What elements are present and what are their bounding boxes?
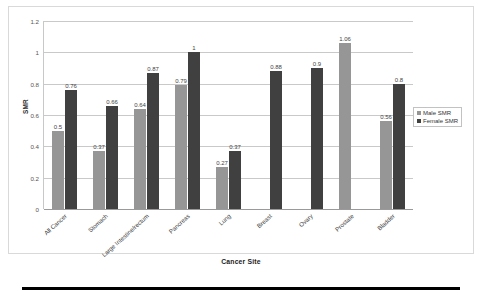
bar-group: 0.640.87 (126, 21, 167, 209)
bar-group: 0.50.76 (44, 21, 85, 209)
bar: 0.8 (393, 84, 405, 209)
bar: 0.56 (380, 121, 392, 209)
x-axis-tick-cell: Bladder (372, 211, 413, 257)
bar-value-label: 0.37 (93, 144, 105, 150)
x-axis-tick-label: Stomach (87, 213, 109, 234)
y-axis-tick-label: 0.4 (30, 144, 39, 150)
bar: 0.5 (52, 131, 64, 209)
bar-value-label: 0.56 (380, 114, 392, 120)
legend-swatch-male-icon (417, 111, 421, 115)
bar-group: 0.370.66 (85, 21, 126, 209)
bar-value-label: 0.9 (313, 61, 321, 67)
y-axis-title: SMR (22, 99, 29, 114)
y-axis-tick-label: 0 (36, 207, 39, 213)
x-axis-tick-label: Bladder (377, 213, 397, 232)
bar-value-label: 0.66 (106, 99, 118, 105)
x-axis-tick-labels: All CancerStomachLarge Intestine/rectumP… (43, 211, 413, 257)
bar-value-label: 0.64 (134, 102, 146, 108)
bar: 0.37 (93, 151, 105, 209)
bar: 0.66 (106, 106, 118, 209)
bar-group: 0.270.37 (208, 21, 249, 209)
y-axis-tick-label: 0.8 (30, 82, 39, 88)
legend-swatch-female-icon (417, 119, 421, 123)
x-axis-tick-label: All Cancer (43, 213, 68, 236)
bar-group: 0.9 (290, 21, 331, 209)
x-axis-tick-cell: Ovary (290, 211, 331, 257)
bar-value-label: 0.88 (270, 64, 282, 70)
x-axis-tick-cell: Lung (207, 211, 248, 257)
x-axis-tick-label: Lung (218, 213, 232, 227)
x-axis-tick-label: Breast (256, 213, 273, 229)
bar-group: 0.88 (249, 21, 290, 209)
x-axis-tick-label: Pancreas (168, 213, 191, 235)
y-axis-tick-label: 1.2 (30, 19, 39, 25)
x-axis-tick-cell: Pancreas (166, 211, 207, 257)
bar-value-label: 0.8 (395, 77, 403, 83)
bar: 0.87 (147, 73, 159, 209)
bar: 0.88 (270, 71, 282, 209)
x-axis-tick-cell: Prostate (331, 211, 372, 257)
x-axis-tick-label: Ovary (298, 213, 314, 228)
x-axis-tick-cell: Breast (249, 211, 290, 257)
chart-legend: Male SMR Female SMR (413, 107, 462, 127)
bar-value-label: 0.76 (65, 83, 77, 89)
bar-value-label: 1 (192, 45, 195, 51)
y-axis-tick-label: 1 (36, 50, 39, 56)
bar: 0.79 (175, 85, 187, 209)
bar-group: 0.791 (167, 21, 208, 209)
x-axis-tick-label: Prostate (334, 213, 355, 233)
bar-group: 0.560.8 (372, 21, 413, 209)
bar: 1 (188, 52, 200, 209)
bar: 0.76 (65, 90, 77, 209)
x-axis-tick-cell: Large Intestine/rectum (125, 211, 166, 257)
bar: 0.9 (311, 68, 323, 209)
bar-value-label: 0.5 (54, 124, 62, 130)
x-axis-title: Cancer Site (0, 258, 482, 265)
legend-item-female: Female SMR (417, 118, 458, 124)
y-axis-tick-label: 0.6 (30, 113, 39, 119)
legend-label-male: Male SMR (423, 110, 451, 116)
bar: 1.06 (339, 43, 351, 209)
plot-area: 00.20.40.60.811.2 0.50.760.370.660.640.8… (43, 21, 413, 209)
bar: 0.27 (216, 167, 228, 209)
bar-value-label: 0.87 (147, 66, 159, 72)
bottom-divider (22, 287, 460, 290)
bar-value-label: 0.27 (216, 160, 228, 166)
y-axis-tick-label: 0.2 (30, 176, 39, 182)
legend-item-male: Male SMR (417, 110, 458, 116)
bar-groups: 0.50.760.370.660.640.870.7910.270.370.88… (44, 21, 413, 209)
bar-value-label: 1.06 (339, 36, 351, 42)
bar-value-label: 0.79 (175, 78, 187, 84)
bar: 0.64 (134, 109, 146, 209)
legend-label-female: Female SMR (423, 118, 458, 124)
gridline: 0 (44, 209, 413, 210)
chart-frame: SMR 00.20.40.60.811.2 0.50.760.370.660.6… (8, 6, 474, 254)
bar-value-label: 0.37 (229, 144, 241, 150)
bar-group: 1.06 (331, 21, 372, 209)
x-axis-tick-cell: All Cancer (43, 211, 84, 257)
chart-figure: SMR 00.20.40.60.811.2 0.50.760.370.660.6… (0, 0, 482, 297)
bar: 0.37 (229, 151, 241, 209)
